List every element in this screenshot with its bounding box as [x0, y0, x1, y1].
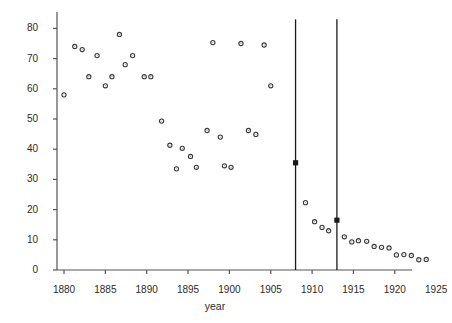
data-point-center [64, 94, 65, 95]
data-point-group [62, 32, 430, 261]
axis-ticks [53, 28, 430, 274]
data-point-center [396, 254, 397, 255]
data-point-center [161, 121, 162, 122]
data-point-center [314, 221, 315, 222]
axis-lines [57, 12, 412, 270]
data-point-center [169, 145, 170, 146]
data-point-center [426, 259, 427, 260]
data-point-center [119, 34, 120, 35]
data-point-center [112, 76, 113, 77]
data-point-center [220, 137, 221, 138]
data-point-center [305, 202, 306, 203]
data-point-center [212, 42, 213, 43]
data-point-center [248, 130, 249, 131]
data-point-center [196, 167, 197, 168]
data-point-center [190, 156, 191, 157]
data-point-center [132, 55, 133, 56]
data-point-center [97, 55, 98, 56]
event-marker [334, 218, 339, 223]
data-point-center [358, 240, 359, 241]
data-point-center [207, 130, 208, 131]
data-point-center [150, 76, 151, 77]
data-point-center [411, 255, 412, 256]
data-point-center [105, 85, 106, 86]
data-point-center [322, 227, 323, 228]
data-point-center [344, 236, 345, 237]
data-point-center [366, 241, 367, 242]
data-point-center [381, 247, 382, 248]
data-point-center [88, 76, 89, 77]
data-point-center [182, 148, 183, 149]
data-point-center [374, 246, 375, 247]
data-point-center [255, 134, 256, 135]
data-point-center [144, 76, 145, 77]
event-vertical-lines [296, 19, 337, 270]
data-point-center [418, 259, 419, 260]
data-point-center [125, 64, 126, 65]
data-point-center [231, 167, 232, 168]
data-point-center [224, 165, 225, 166]
data-point-center [270, 85, 271, 86]
event-marker-group [293, 160, 340, 223]
data-point-center [176, 168, 177, 169]
data-point-center [389, 248, 390, 249]
data-point-center [74, 46, 75, 47]
data-point-center [403, 254, 404, 255]
data-point-center [241, 43, 242, 44]
event-marker [293, 160, 298, 165]
data-point-center [82, 49, 83, 50]
data-point-center [264, 45, 265, 46]
data-point-center [328, 230, 329, 231]
data-point-center [351, 241, 352, 242]
